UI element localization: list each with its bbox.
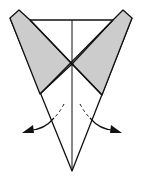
left-flap — [10, 10, 72, 94]
left-valley-fold-line — [54, 104, 64, 118]
left-fold-arrow-icon — [22, 118, 54, 133]
right-valley-fold-line — [80, 104, 90, 118]
right-fold-arrow-icon — [90, 118, 122, 133]
origami-diagram — [0, 0, 145, 180]
center-point — [71, 63, 74, 66]
